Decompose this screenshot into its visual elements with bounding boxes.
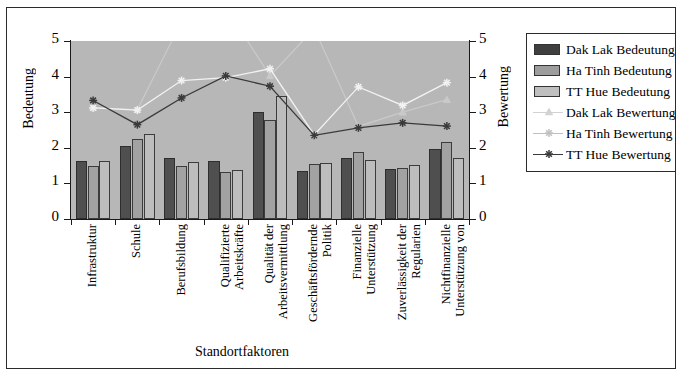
star-marker-icon bbox=[222, 72, 230, 80]
legend-item: Dak Lak Bewertung bbox=[533, 102, 669, 123]
y-axis-right bbox=[469, 40, 470, 220]
triangle-marker-icon bbox=[545, 108, 552, 114]
legend-key bbox=[533, 81, 563, 102]
y-tick-label-left: 1 bbox=[39, 175, 59, 185]
chart-frame: 012345 012345 Bedeutung Bewertung Infras… bbox=[6, 7, 676, 369]
star-marker-icon bbox=[266, 82, 274, 90]
x-axis bbox=[70, 219, 470, 220]
chart-legend: Dak Lak BedeutungHa Tinh BedeutungTT Hue… bbox=[526, 33, 676, 172]
x-axis-label: Zuverlässigkeit der bbox=[396, 224, 409, 320]
x-axis-label: Arbeitsvermittlung bbox=[277, 224, 290, 319]
star-marker-icon bbox=[399, 101, 407, 109]
y-tick-label-right: 2 bbox=[479, 140, 499, 150]
legend-item: TT Hue Bewertung bbox=[533, 144, 669, 165]
legend-swatch bbox=[534, 65, 560, 76]
legend-key bbox=[533, 123, 563, 144]
legend-swatch bbox=[534, 44, 560, 55]
x-axis-labels: InfrastrukturSchuleBerufsbildungQualifiz… bbox=[71, 224, 469, 342]
x-axis-label: Unterstützung von bbox=[454, 224, 467, 317]
y-tick-left bbox=[64, 219, 70, 220]
y-tick-left bbox=[64, 41, 70, 42]
star-marker-icon bbox=[266, 65, 274, 73]
legend-key bbox=[533, 144, 563, 165]
x-axis-label: Arbeitskräfte bbox=[233, 224, 246, 290]
star-marker-icon bbox=[443, 79, 451, 87]
x-axis-label: Nichtfinanzielle bbox=[440, 224, 453, 305]
y-tick-left bbox=[64, 183, 70, 184]
star-marker-icon bbox=[310, 131, 318, 139]
y-tick-left bbox=[64, 148, 70, 149]
y-tick-label-left: 4 bbox=[39, 69, 59, 79]
legend-label: Dak Lak Bedeutung bbox=[563, 42, 675, 58]
triangle-marker-icon bbox=[443, 96, 450, 102]
legend-item: Ha Tinh Bewertung bbox=[533, 123, 669, 144]
legend-item: Ha Tinh Bedeutung bbox=[533, 60, 669, 81]
star-marker-icon bbox=[545, 129, 553, 137]
legend-key bbox=[533, 39, 563, 60]
y-tick-right bbox=[470, 77, 476, 78]
star-marker-icon bbox=[399, 119, 407, 127]
star-marker-icon bbox=[354, 83, 362, 91]
y-tick-label-left: 0 bbox=[39, 211, 59, 221]
star-marker-icon bbox=[443, 122, 451, 130]
x-axis-label: Schule bbox=[130, 224, 143, 258]
y-tick-label-left: 2 bbox=[39, 140, 59, 150]
x-axis-label: Politik bbox=[321, 224, 334, 257]
x-axis-label: Unterstützung bbox=[365, 224, 378, 295]
star-marker-icon bbox=[133, 106, 141, 114]
y-tick-label-right: 0 bbox=[479, 211, 499, 221]
x-axis-label: Berufsbildung bbox=[175, 224, 188, 296]
y-tick-label-right: 5 bbox=[479, 33, 499, 43]
y-tick-right bbox=[470, 219, 476, 220]
legend-key bbox=[533, 102, 563, 123]
y-tick-label-left: 5 bbox=[39, 33, 59, 43]
star-marker-icon bbox=[545, 129, 553, 137]
y-tick-left bbox=[64, 77, 70, 78]
y-tick-label-left: 3 bbox=[39, 104, 59, 114]
legend-item: TT Hue Bedeutung bbox=[533, 81, 669, 102]
legend-label: Ha Tinh Bewertung bbox=[563, 126, 673, 142]
y-tick-right bbox=[470, 183, 476, 184]
lines-layer bbox=[71, 41, 469, 219]
star-marker-icon bbox=[178, 77, 186, 85]
y-tick-right bbox=[470, 148, 476, 149]
x-axis-label: Qualifizierte bbox=[219, 224, 232, 287]
y-tick-right bbox=[470, 41, 476, 42]
x-axis-label: Geschäftsfördernde bbox=[307, 224, 320, 322]
star-marker-icon bbox=[89, 96, 97, 104]
chart-screenshot: 012345 012345 Bedeutung Bewertung Infras… bbox=[0, 0, 684, 377]
y-tick-right bbox=[470, 112, 476, 113]
y-tick-left bbox=[64, 112, 70, 113]
legend-label: Ha Tinh Bedeutung bbox=[563, 63, 672, 79]
x-axis-label: Qualität der bbox=[263, 224, 276, 283]
y-axis-left-title: Bedeutung bbox=[21, 68, 37, 129]
star-marker-icon bbox=[545, 150, 553, 158]
x-axis-label: Finanzielle bbox=[351, 224, 364, 280]
y-axis-right-title: Bewertung bbox=[496, 66, 512, 127]
triangle-marker-icon bbox=[545, 108, 553, 116]
x-axis-title: Standortfaktoren bbox=[7, 344, 477, 360]
legend-key bbox=[533, 60, 563, 81]
star-marker-icon bbox=[178, 94, 186, 102]
star-marker-icon bbox=[545, 150, 553, 158]
x-tick bbox=[469, 220, 470, 225]
star-marker-icon bbox=[354, 124, 362, 132]
star-marker-icon bbox=[89, 104, 97, 112]
star-marker-icon bbox=[133, 121, 141, 129]
legend-label: Dak Lak Bewertung bbox=[563, 105, 675, 121]
legend-label: TT Hue Bedeutung bbox=[563, 84, 670, 100]
y-tick-label-right: 1 bbox=[479, 175, 499, 185]
legend-swatch bbox=[534, 86, 560, 97]
x-axis-label: Regularien bbox=[410, 224, 423, 279]
x-axis-label: Infrastruktur bbox=[86, 224, 99, 287]
legend-item: Dak Lak Bedeutung bbox=[533, 39, 669, 60]
legend-label: TT Hue Bewertung bbox=[563, 147, 671, 163]
